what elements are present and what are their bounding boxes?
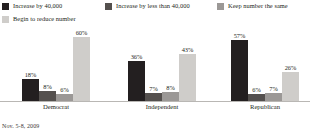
x-axis-baseline: [0, 101, 310, 102]
group-label-democrat: Democrat: [22, 103, 90, 111]
bar-increase-by-less-than-40000: [248, 94, 265, 101]
group-label-independent: Independent: [128, 103, 196, 111]
chart-legend: Increase by 40,000 Increase by less than…: [0, 0, 310, 28]
legend-label: Begin to reduce number: [13, 15, 76, 23]
legend-item-keep-number-the-same: Keep number the same: [217, 2, 288, 10]
bar-increase-by-less-than-40000: [39, 91, 56, 101]
bar-item: 18%: [22, 28, 39, 101]
bar-set: 18% 8% 6% 60%: [22, 28, 90, 101]
bar-value-label: 7%: [269, 85, 278, 92]
bar-group-independent: 36% 7% 8% 43% Independent: [128, 28, 196, 101]
bar-item: 60%: [73, 28, 90, 101]
bar-value-label: 60%: [76, 29, 88, 36]
bar-value-label: 57%: [234, 32, 246, 39]
bar-value-label: 36%: [131, 53, 143, 60]
legend-swatch-icon: [2, 16, 9, 23]
plot-area: 18% 8% 6% 60% Democrat: [0, 28, 310, 102]
bar-increase-by-40000: [22, 79, 39, 101]
bar-begin-to-reduce-number: [73, 37, 90, 101]
legend-label: Increase by 40,000: [13, 2, 62, 10]
bar-item: 36%: [128, 28, 145, 101]
legend-label: Increase by less than 40,000: [116, 2, 190, 10]
bar-group-democrat: 18% 8% 6% 60% Democrat: [22, 28, 90, 101]
bar-value-label: 18%: [25, 71, 37, 78]
group-label-republican: Republican: [231, 103, 299, 111]
bar-value-label: 8%: [43, 83, 52, 90]
bar-set: 57% 6% 7% 26%: [231, 28, 299, 101]
legend-label: Keep number the same: [228, 2, 288, 10]
bar-item: 26%: [282, 28, 299, 101]
bar-value-label: 8%: [166, 84, 175, 91]
bar-set: 36% 7% 8% 43%: [128, 28, 196, 101]
bar-item: 6%: [56, 28, 73, 101]
bar-chart: Increase by 40,000 Increase by less than…: [0, 0, 310, 135]
bar-group-republican: 57% 6% 7% 26% Republican: [231, 28, 299, 101]
bar-item: 6%: [248, 28, 265, 101]
legend-item-increase-by-40000: Increase by 40,000: [2, 2, 62, 10]
legend-swatch-icon: [105, 3, 112, 10]
bar-item: 57%: [231, 28, 248, 101]
bar-item: 43%: [179, 28, 196, 101]
bar-begin-to-reduce-number: [179, 54, 196, 101]
bar-increase-by-less-than-40000: [145, 93, 162, 101]
bar-keep-number-the-same: [56, 94, 73, 101]
bar-value-label: 7%: [149, 85, 158, 92]
bar-item: 7%: [145, 28, 162, 101]
bar-increase-by-40000: [128, 61, 145, 101]
bar-item: 8%: [162, 28, 179, 101]
bar-begin-to-reduce-number: [282, 72, 299, 101]
bar-keep-number-the-same: [162, 92, 179, 101]
bar-value-label: 6%: [60, 86, 69, 93]
bar-value-label: 6%: [252, 86, 261, 93]
bar-keep-number-the-same: [265, 93, 282, 101]
legend-swatch-icon: [217, 3, 224, 10]
bar-item: 7%: [265, 28, 282, 101]
bar-value-label: 26%: [285, 64, 297, 71]
chart-footnote: Nov. 5-8, 2009: [2, 122, 39, 130]
bar-increase-by-40000: [231, 40, 248, 101]
legend-item-begin-to-reduce-number: Begin to reduce number: [2, 15, 76, 23]
bar-value-label: 43%: [182, 46, 194, 53]
bar-item: 8%: [39, 28, 56, 101]
legend-swatch-icon: [2, 3, 9, 10]
legend-item-increase-by-less-than-40000: Increase by less than 40,000: [105, 2, 190, 10]
